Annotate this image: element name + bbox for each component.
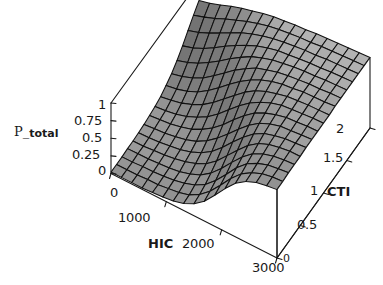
z-axis-tick-0: 1 <box>98 98 106 111</box>
z-axis-label-main: P_ <box>14 124 29 139</box>
z-axis-label: P_ total <box>14 124 59 139</box>
z-axis-tick-3: 0.25 <box>72 148 100 161</box>
x-axis-tick-0: 0 <box>110 186 118 199</box>
z-axis-label-sub: total <box>29 127 58 140</box>
x-axis-title: HIC <box>148 237 173 250</box>
z-axis-tick-2: 0.5 <box>82 131 102 144</box>
y-axis-tick-zero: 0 <box>283 252 290 265</box>
x-axis-tick-2: 2000 <box>182 237 214 250</box>
z-axis-tick-1: 0.75 <box>74 114 102 127</box>
y-axis-title: CTI <box>327 185 350 198</box>
surface-plot-3d: P_ total 10.750.50.250010002000300000.51… <box>0 0 383 285</box>
z-axis-tick-4: 0 <box>98 164 106 177</box>
y-axis-tick-4: 2 <box>336 122 344 135</box>
x-axis-tick-3: 3000 <box>252 261 284 274</box>
y-axis-tick-1: 0.5 <box>297 218 317 231</box>
y-axis-tick-2: 1 <box>310 184 318 197</box>
x-axis-tick-1: 1000 <box>118 211 150 224</box>
y-axis-tick-3: 1.5 <box>323 151 343 164</box>
